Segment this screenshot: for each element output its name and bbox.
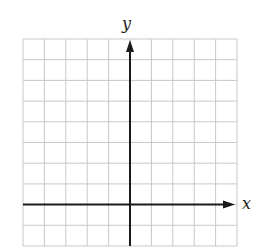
x-axis-label: x xyxy=(242,194,251,213)
y-axis-label: y xyxy=(121,14,132,33)
coordinate-plane: x y xyxy=(0,0,262,252)
x-axis-arrowhead-icon xyxy=(223,201,235,209)
y-axis-arrowhead-icon xyxy=(126,40,134,52)
